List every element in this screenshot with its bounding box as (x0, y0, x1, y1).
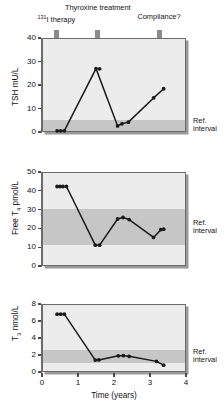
t3-panel-y-tick (38, 354, 41, 355)
t3-panel-y-tick-label: 0 (14, 367, 36, 376)
t3-panel-x-tick-label: 1 (70, 378, 86, 387)
t3-panel-x-tick-label: 3 (142, 378, 158, 387)
t3-panel-x-axis-label: Time (years) (42, 391, 186, 400)
t3-panel-data-point (155, 359, 159, 363)
t3-panel-x-tick-label: 2 (106, 378, 122, 387)
t3-panel-x-tick (41, 373, 42, 377)
t3-panel-x-tick-label: 4 (178, 378, 194, 387)
t3-panel-x-tick (77, 373, 78, 377)
t3-panel-data-point (59, 312, 63, 316)
t3-panel-line-segment (64, 314, 95, 360)
t3-panel-line-segment (129, 356, 156, 361)
y-label-unit: nmol/L (11, 305, 20, 332)
t3-panel-y-tick (38, 303, 41, 304)
t3-panel-x-tick (185, 373, 186, 377)
t3-panel-data-point (162, 363, 166, 367)
t3-panel-y-tick (38, 320, 41, 321)
t3-panel-reference-label: Ref.interval (193, 348, 217, 365)
t3-panel-x-tick-label: 0 (34, 378, 50, 387)
t3-panel-x-tick (113, 373, 114, 377)
t3-panel-data-point (62, 312, 66, 316)
t3-panel-data-point (121, 354, 125, 358)
figure-root: 131I therapyThyroxine treatmentComplianc… (0, 0, 224, 408)
t3-panel-data-point (55, 312, 59, 316)
t3-panel-y-axis-label: T3 nmol/L (11, 305, 22, 340)
t3-panel-y-tick (38, 337, 41, 338)
reference-label-line2: interval (193, 356, 217, 364)
t3-panel-data-point (97, 358, 101, 362)
t3-panel-data-point (127, 354, 131, 358)
t3-panel-data-point (93, 358, 97, 362)
t3-panel-x-tick (149, 373, 150, 377)
t3-panel-y-tick-label: 2 (14, 350, 36, 359)
y-label-text: T (11, 336, 20, 341)
t3-panel-line-segment (99, 356, 118, 360)
t3-panel-data-point (116, 354, 120, 358)
t3-panel-data-layer (0, 0, 224, 408)
t3-panel-y-axis (41, 304, 42, 373)
